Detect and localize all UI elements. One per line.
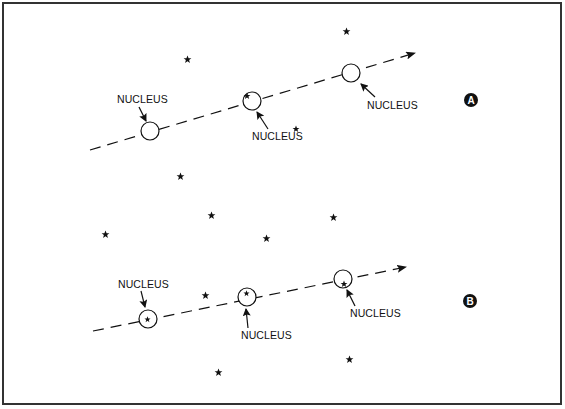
star-icon [202,291,210,298]
nucleus-a1 [141,122,159,140]
pointer-b3 [347,290,355,306]
nucleus-label-a3: NUCLEUS [367,99,418,111]
star-icon [208,211,216,218]
nucleus-a3 [342,64,360,82]
nucleus-label-b3: NUCLEUS [350,307,401,319]
nucleus-b2 [238,288,256,306]
panel-a: NUCLEUS NUCLEUS NUCLEUS A [90,53,478,150]
star-icon [102,230,110,237]
background-stars [102,27,354,375]
svg-text:B: B [466,296,473,307]
star-icon [346,355,354,362]
nucleus-label-a2: NUCLEUS [252,130,303,142]
pointer-a1 [139,107,146,121]
star-icon [343,27,351,34]
nucleus-label-a1: NUCLEUS [117,93,168,105]
nucleus-label-b2: NUCLEUS [241,329,292,341]
star-icon [177,172,185,179]
star-icon [215,368,223,375]
pointer-a3 [361,84,375,97]
pointer-a2 [257,112,268,129]
badge-b: B [463,294,477,308]
pointer-b1 [141,291,145,307]
panel-b: NUCLEUS NUCLEUS NUCLEUS B [93,267,477,341]
nucleus-a2 [243,92,261,110]
star-icon [263,234,271,241]
star-icon [184,55,192,62]
comet-nucleus-diagram: NUCLEUS NUCLEUS NUCLEUS A NUCLEUS NUCLEU… [0,0,565,409]
pointer-b2 [246,309,248,328]
star-icon [330,213,338,220]
badge-a: A [464,93,478,107]
figure-frame [3,3,561,404]
nucleus-label-b1: NUCLEUS [118,278,169,290]
svg-text:A: A [467,95,474,106]
